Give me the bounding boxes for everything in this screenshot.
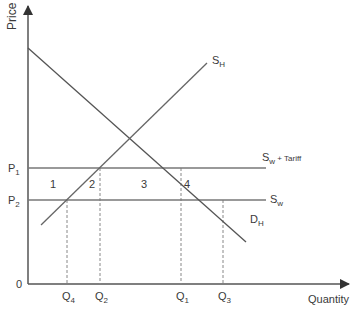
x-axis-label: Quantity	[308, 293, 349, 305]
tariff-diagram: Price Quantity 0 P1 P2 Q4 Q2 Q1 Q3 SH DH…	[0, 0, 354, 311]
world-supply-tariff-label: Sw + Tariff	[262, 151, 302, 166]
home-demand-curve	[28, 48, 246, 242]
p1-label: P1	[8, 162, 20, 177]
q4-label: Q4	[62, 290, 76, 305]
area-3-label: 3	[141, 178, 147, 190]
p2-label: P2	[8, 194, 20, 209]
world-supply-label: Sw	[270, 193, 283, 208]
y-axis-label: Price	[5, 2, 19, 30]
q3-label: Q3	[218, 290, 232, 305]
origin-label: 0	[16, 278, 22, 290]
home-demand-label: DH	[250, 213, 264, 228]
home-supply-label: SH	[212, 54, 225, 69]
q1-label: Q1	[176, 290, 190, 305]
area-2-label: 2	[89, 178, 95, 190]
q2-label: Q2	[95, 290, 109, 305]
area-1-label: 1	[50, 178, 56, 190]
area-4-label: 4	[184, 178, 190, 190]
home-supply-curve	[41, 63, 207, 225]
